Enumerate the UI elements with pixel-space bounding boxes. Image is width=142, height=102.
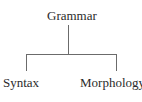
right-branch-line	[116, 54, 117, 71]
root-node-grammar: Grammar	[47, 9, 97, 22]
tree-diagram: Grammar Syntax Morphology	[0, 0, 142, 102]
left-branch-line	[26, 54, 27, 71]
child-node-syntax: Syntax	[3, 76, 39, 89]
root-connector-line	[68, 25, 69, 54]
branch-horizontal-line	[26, 54, 117, 55]
child-node-morphology: Morphology	[80, 76, 142, 89]
